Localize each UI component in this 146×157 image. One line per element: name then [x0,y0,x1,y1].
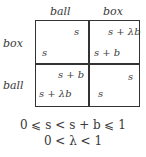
cell-r0c0-column-payoff: s [74,27,79,37]
column-label-box: box [103,6,123,17]
cell-r1c1-column-payoff: s [128,72,133,82]
cell-r1c1-row-payoff: s [98,89,103,99]
cell-r1c0-column-payoff: s + b [58,70,84,80]
row-label-box: box [3,38,23,49]
cell-r1c0-row-payoff: s + λb [39,89,72,99]
constraint-lambda-range: 0 < λ < 1 [0,135,146,147]
payoff-matrix: s s s + λb s + b s + b s + λb s s [35,20,140,107]
row-label-ball: ball [3,80,24,91]
column-label-ball: ball [50,6,71,17]
cell-r0c1-row-payoff: s + b [94,48,120,58]
horizontal-divider [36,63,139,65]
cell-r0c1-column-payoff: s + λb [108,27,141,37]
constraint-payoff-range: 0 ⩽ s < s + b ⩽ 1 [0,119,146,131]
cell-r0c0-row-payoff: s [42,48,47,58]
